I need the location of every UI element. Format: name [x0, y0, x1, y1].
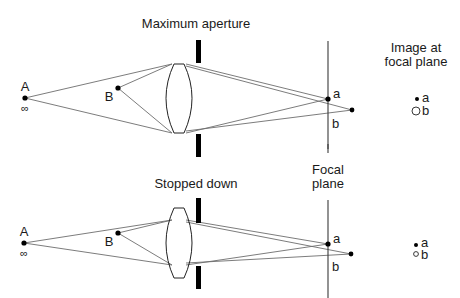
- label-a-image: a: [333, 86, 341, 101]
- lens: [166, 208, 192, 278]
- lens: [166, 64, 192, 133]
- inset-point-a: [414, 243, 418, 247]
- point-a-object: [21, 240, 26, 245]
- ray-a-lower: [25, 98, 172, 133]
- point-a-image: [325, 241, 330, 246]
- inset-point-a: [415, 97, 419, 101]
- label-b-object: B: [105, 234, 114, 249]
- label-infinity: ∞: [21, 102, 29, 114]
- point-b-object: [115, 85, 120, 90]
- focal-plane-label-line1: Focal: [312, 162, 344, 177]
- ray-b-upper-refracted: [186, 66, 352, 110]
- panel-title: Maximum aperture: [142, 16, 250, 31]
- label-b-image: b: [332, 259, 339, 274]
- aperture-blade-top: [196, 40, 201, 63]
- point-b-image: [350, 108, 355, 113]
- point-a-object: [22, 95, 27, 100]
- aperture-blade-bottom: [196, 134, 201, 157]
- ray-b-lower: [118, 233, 172, 265]
- panel-stopped-down: Stopped down Focal plane A ∞ B a: [20, 144, 429, 298]
- label-infinity: ∞: [20, 247, 28, 259]
- point-a-image: [325, 96, 330, 101]
- ray-a-upper-refracted: [186, 64, 328, 99]
- aperture-blade-bottom: [196, 266, 201, 289]
- inset-title-line2: focal plane: [385, 54, 448, 69]
- point-b-object: [115, 230, 120, 235]
- ray-b-upper-refracted: [186, 222, 351, 254]
- inset-label-b: b: [422, 103, 429, 118]
- label-a-object: A: [21, 79, 30, 94]
- inset-circle-b: [414, 252, 419, 257]
- label-b-image: b: [332, 116, 339, 131]
- label-a-image: a: [333, 231, 341, 246]
- focal-plane-label-line2: plane: [312, 176, 344, 191]
- panel-maximum-aperture: Maximum aperture A ∞ B a b Image at: [21, 16, 448, 157]
- ray-b-lower-refracted: [186, 254, 351, 263]
- ray-a-upper: [25, 64, 172, 98]
- aperture-blade-top: [196, 198, 201, 223]
- ray-a-lower: [24, 243, 172, 265]
- panel-title: Stopped down: [154, 176, 237, 191]
- depth-of-field-diagram: Maximum aperture A ∞ B a b Image at: [0, 0, 460, 298]
- ray-b-upper: [118, 220, 172, 233]
- ray-a-upper-refracted: [186, 220, 328, 244]
- ray-b-upper: [118, 64, 172, 88]
- inset-circle-b: [412, 107, 420, 115]
- ray-a-upper: [24, 220, 172, 243]
- label-a-object: A: [20, 224, 29, 239]
- point-b-image: [349, 252, 354, 257]
- inset-title-line1: Image at: [391, 40, 442, 55]
- inset-label-b: b: [421, 247, 428, 262]
- label-b-object: B: [105, 89, 114, 104]
